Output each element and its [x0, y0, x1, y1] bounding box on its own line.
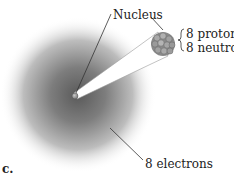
magnified-nucleus — [151, 32, 175, 56]
nucleus-small — [72, 93, 78, 99]
electrons-label: 8 electrons — [145, 158, 213, 170]
atom-diagram: Nucleus 8 protons 8 neutrons 8 electrons… — [0, 0, 234, 176]
panel-label: c. — [2, 163, 13, 175]
neutrons-label: 8 neutrons — [186, 42, 234, 54]
composition-brace — [178, 29, 184, 51]
protons-label: 8 protons — [186, 28, 234, 40]
nucleus-label: Nucleus — [113, 9, 163, 21]
